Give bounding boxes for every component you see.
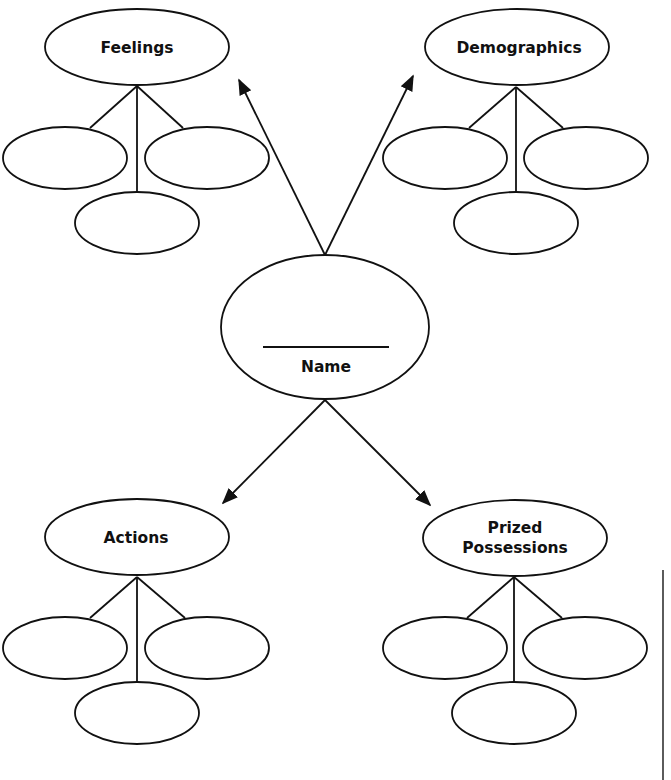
character-map-diagram: Feelings Demographics Name Actions xyxy=(0,0,671,780)
prized-possessions-node xyxy=(423,500,607,576)
branch-feelings: Feelings xyxy=(3,9,269,254)
feelings-child-bottom[interactable] xyxy=(75,192,199,254)
actions-child-left[interactable] xyxy=(3,617,127,679)
demographics-label: Demographics xyxy=(456,39,581,57)
feelings-label: Feelings xyxy=(101,39,174,57)
arrow-to-actions xyxy=(223,400,325,503)
actions-label: Actions xyxy=(104,529,169,547)
feelings-child-left[interactable] xyxy=(3,127,127,189)
actions-child-bottom[interactable] xyxy=(75,682,199,744)
branch-actions: Actions xyxy=(3,499,269,744)
demographics-child-right[interactable] xyxy=(524,127,648,189)
prized-possessions-child-right[interactable] xyxy=(523,617,647,679)
center-node-group: Name xyxy=(221,255,429,399)
actions-child-right[interactable] xyxy=(145,617,269,679)
prized-possessions-child-left[interactable] xyxy=(383,617,507,679)
feelings-child-right[interactable] xyxy=(145,127,269,189)
name-label: Name xyxy=(301,358,351,376)
arrow-to-prized-possessions xyxy=(325,400,430,505)
branch-demographics: Demographics xyxy=(383,9,648,254)
demographics-child-left[interactable] xyxy=(383,127,507,189)
name-node[interactable] xyxy=(221,255,429,399)
prized-possessions-label-line1: Prized xyxy=(488,519,543,537)
prized-possessions-child-bottom[interactable] xyxy=(452,682,576,744)
branch-prized-possessions: Prized Possessions xyxy=(383,500,647,744)
prized-possessions-label-line2: Possessions xyxy=(462,539,568,557)
demographics-child-bottom[interactable] xyxy=(454,192,578,254)
